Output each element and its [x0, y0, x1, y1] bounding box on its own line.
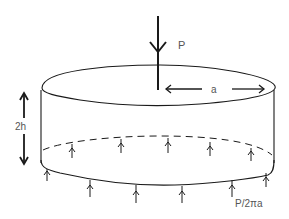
reaction-arrow	[165, 138, 171, 153]
reaction-arrows-back	[69, 138, 254, 161]
bottom-front-edge	[41, 160, 274, 185]
reaction-arrow	[248, 148, 254, 161]
load-arrow	[150, 16, 166, 90]
cylinder-diagram: P a 2h P/2πa	[0, 0, 289, 219]
height-label: 2h	[15, 121, 26, 132]
reaction-arrow	[87, 180, 93, 197]
reaction-arrow	[69, 144, 75, 158]
reaction-arrow	[133, 185, 139, 203]
reaction-arrow	[44, 169, 50, 181]
reaction-arrow	[207, 142, 213, 156]
bottom-back-edge-dashed	[43, 136, 272, 155]
radius-label: a	[211, 84, 217, 95]
reaction-arrow	[118, 139, 124, 153]
reaction-arrow	[229, 180, 235, 197]
load-label: P	[178, 39, 185, 51]
reaction-arrow	[179, 186, 185, 203]
reaction-label: P/2πa	[235, 198, 263, 209]
